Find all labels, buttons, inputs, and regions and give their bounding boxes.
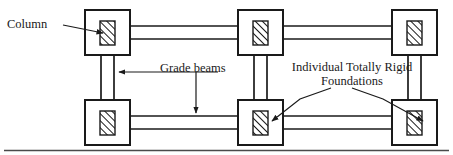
label-foundations-line2: Foundations (274, 75, 430, 89)
grade-beam-top-center-to-right (281, 26, 394, 39)
foundation-top-center (238, 10, 283, 55)
grade-beam-left-vertical (101, 53, 114, 102)
label-column: Column (7, 18, 47, 32)
foundation-bottom-center (238, 100, 283, 145)
column-stub-top-right (407, 21, 422, 45)
foundation-bottom-right (392, 100, 437, 145)
foundation-bottom-left (85, 100, 130, 145)
foundation-top-right (392, 10, 437, 55)
label-grade-beams: Grade beams (160, 62, 226, 76)
grade-beam-center-vertical (254, 53, 267, 102)
column-stub-top-center (253, 21, 268, 45)
grade-beam-top-left-to-center (128, 26, 240, 39)
column-stub-bottom-left (100, 111, 115, 135)
foundation-top-left (85, 10, 130, 55)
grade-beam-bottom-center-to-right (281, 116, 394, 129)
column-stub-bottom-right (407, 111, 422, 135)
foundation-diagram: Column Grade beams Individual Totally Ri… (0, 0, 453, 155)
grade-beam-bottom-left-to-center (128, 116, 240, 129)
label-foundations: Individual Totally RigidFoundations (274, 61, 430, 88)
column-stub-bottom-center (253, 111, 268, 135)
label-foundations-line1: Individual Totally Rigid (292, 60, 412, 74)
